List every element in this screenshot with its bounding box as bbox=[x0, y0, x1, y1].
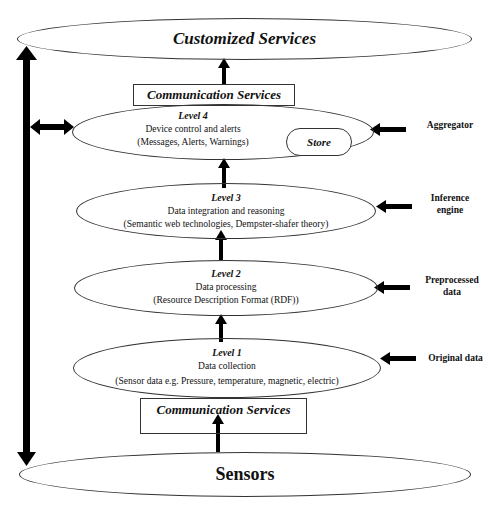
sensors-label: Sensors bbox=[20, 464, 470, 485]
aggregator-label: Aggregator bbox=[410, 119, 490, 131]
preprocessed-data-label: Preprocessed data bbox=[412, 274, 492, 298]
level-4-line1: Device control and alerts bbox=[73, 123, 313, 136]
level-1-line1: Data collection bbox=[74, 360, 380, 373]
communication-services-bottom-label: Communication Services bbox=[157, 402, 291, 417]
vertical-double-arrow-icon bbox=[16, 46, 37, 466]
level-3-title: Level 3 bbox=[77, 192, 375, 203]
customized-services-node: Customized Services bbox=[17, 18, 472, 60]
side-label-line: Aggregator bbox=[410, 119, 490, 131]
level-1-line2: (Sensor data e.g. Pressure, temperature,… bbox=[74, 375, 380, 388]
communication-services-top-label: Communication Services bbox=[147, 87, 281, 102]
level-1-title: Level 1 bbox=[74, 347, 380, 358]
original-data-label: Original data bbox=[418, 352, 493, 364]
side-label-line: data bbox=[412, 286, 492, 298]
store-node: Store bbox=[286, 128, 352, 156]
customized-services-label: Customized Services bbox=[18, 29, 471, 49]
level-2-line1: Data processing bbox=[75, 281, 377, 294]
arrow-up-icon bbox=[218, 58, 230, 86]
level-2-title: Level 2 bbox=[75, 268, 377, 279]
level-2-node: Level 2 Data processing (Resource Descri… bbox=[74, 260, 378, 316]
level-3-line2: (Semantic web technologies, Dempster-sha… bbox=[77, 218, 375, 231]
communication-services-bottom-box: Communication Services bbox=[140, 398, 307, 434]
side-label-line: Preprocessed bbox=[412, 274, 492, 286]
horizontal-double-arrow-icon bbox=[30, 119, 74, 135]
communication-services-top-box: Communication Services bbox=[133, 84, 295, 106]
level-2-line2: (Resource Description Format (RDF)) bbox=[75, 294, 377, 307]
level-3-node: Level 3 Data integration and reasoning (… bbox=[76, 183, 376, 239]
arrow-left-icon bbox=[380, 352, 416, 365]
side-label-line: Original data bbox=[418, 352, 493, 364]
level-1-node: Level 1 Data collection (Sensor data e.g… bbox=[73, 338, 381, 398]
sensors-node: Sensors bbox=[19, 452, 471, 497]
store-label: Store bbox=[307, 136, 331, 148]
level-4-line2: (Messages, Alerts, Warnings) bbox=[73, 136, 313, 149]
arrow-left-icon bbox=[374, 281, 410, 294]
side-label-line: engine bbox=[410, 204, 490, 216]
inference-engine-label: Inference engine bbox=[410, 192, 490, 216]
arrow-left-icon bbox=[370, 123, 406, 136]
side-label-line: Inference bbox=[410, 192, 490, 204]
arrow-left-icon bbox=[376, 200, 412, 213]
level-3-line1: Data integration and reasoning bbox=[77, 205, 375, 218]
level-4-title: Level 4 bbox=[73, 110, 313, 121]
